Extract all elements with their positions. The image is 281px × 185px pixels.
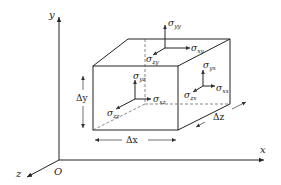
sigma-zy-label: σzy <box>146 54 159 66</box>
top-face-stresses <box>153 25 190 55</box>
sigma-xz-label: σxz <box>153 94 167 105</box>
stress-element-diagram: y x z O Δy Δx Δz σyy σxy σzy <box>0 0 281 185</box>
dz-label: Δz <box>213 112 224 122</box>
right-face-stresses <box>193 70 215 92</box>
x-axis-label: x <box>260 144 266 155</box>
z-axis-label: z <box>15 168 22 179</box>
sigma-xx-label: σxx <box>216 83 230 94</box>
sigma-yx-label: σyx <box>203 60 217 72</box>
sigma-zx-label: σzx <box>184 90 197 101</box>
sigma-zz-label: σzz <box>107 108 120 119</box>
cube-top-back-edges <box>93 39 230 66</box>
coordinate-axes <box>27 17 264 177</box>
sigma-yy-label: σyy <box>168 18 182 30</box>
dy-label: Δy <box>76 93 88 103</box>
origin-label: O <box>54 166 62 177</box>
dx-label: Δx <box>126 135 138 145</box>
front-face-stresses <box>116 80 151 109</box>
y-axis-label: y <box>48 9 55 20</box>
sigma-xy-label: σxy <box>191 43 205 55</box>
